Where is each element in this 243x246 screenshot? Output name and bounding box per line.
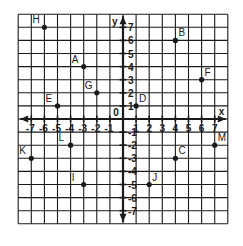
axes [20,16,226,222]
point-label: B [178,27,185,38]
point-dot-icon [173,38,178,43]
point-label: M [218,132,226,143]
y-tick-label: 5 [128,49,134,60]
point-dot-icon [42,25,47,30]
x-tick-label: -1 [104,123,113,134]
y-tick-label: 6 [128,35,134,46]
y-tick-label: -5 [128,180,137,191]
y-tick-label: -3 [128,153,137,164]
x-tick-label: 4 [173,123,179,134]
y-tick-label: -7 [128,206,137,217]
y-tick-label: -4 [128,166,137,177]
tick-labels: -7-6-5-4-3-2-112345677654321-1-2-3-4-5-6… [26,16,225,217]
point-dot-icon [29,156,34,161]
point-dot-icon [81,64,86,69]
point-label: I [72,172,75,183]
x-axis-arrow-left-icon [20,116,28,123]
point-label: C [178,145,185,156]
x-tick-label: -7 [26,123,35,134]
x-tick-label: -3 [78,123,87,134]
x-tick-label: 2 [146,123,152,134]
point-label: H [32,14,39,25]
point-dot-icon [147,182,152,187]
y-axis-label: y [112,16,118,27]
y-tick-label: -2 [128,140,137,151]
point-label: K [19,145,26,156]
x-tick-label: -2 [91,123,100,134]
point-label: G [85,80,93,91]
y-axis-arrow-down-icon [120,214,127,222]
point-label: J [152,172,157,183]
point-dot-icon [173,156,178,161]
point-dot-icon [134,103,139,108]
point-label: A [72,54,79,65]
point-label: E [46,93,53,104]
y-tick-label: -6 [128,193,137,204]
y-tick-label: 7 [128,22,134,33]
x-tick-label: 3 [160,123,166,134]
point-label: L [59,132,65,143]
y-tick-label: 2 [128,88,134,99]
point-dot-icon [68,143,73,148]
y-axis-arrow-up-icon [120,16,127,24]
x-tick-label: 6 [199,123,205,134]
point-dot-icon [94,90,99,95]
y-tick-label: -1 [128,127,137,138]
origin-label: 0 [113,107,119,118]
point-dot-icon [55,103,60,108]
point-dot-icon [199,77,204,82]
x-tick-label: 5 [186,123,192,134]
x-axis-label: x [219,106,225,117]
coordinate-plane: -7-6-5-4-3-2-112345677654321-1-2-3-4-5-6… [0,0,243,246]
point-dot-icon [212,143,217,148]
y-tick-label: 1 [128,101,134,112]
y-tick-label: 3 [128,75,134,86]
y-tick-label: 4 [128,62,134,73]
point-dot-icon [81,182,86,187]
point-label: F [205,67,211,78]
x-tick-label: -4 [65,123,74,134]
point-label: D [139,93,146,104]
x-tick-label: -6 [39,123,48,134]
